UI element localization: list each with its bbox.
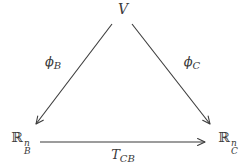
diagram-arrows [0, 0, 247, 168]
node-rn-b-scripts: nB [24, 139, 31, 155]
node-rn-c-scripts: nC [231, 139, 238, 155]
commutative-diagram: V ℝnB ℝnC ϕB ϕC TCB [0, 0, 247, 168]
edge-label-t-cb-subscript: CB [120, 153, 135, 164]
arrow-v-to-rc [132, 24, 210, 124]
node-v: V [118, 2, 128, 16]
arrow-v-to-rb [36, 24, 112, 124]
node-v-label: V [118, 1, 128, 17]
edge-label-phi-b-base: ϕ [45, 54, 54, 69]
edge-label-t-cb: TCB [111, 148, 135, 164]
edge-label-phi-c: ϕC [184, 55, 201, 71]
edge-label-phi-c-base: ϕ [184, 54, 193, 69]
edge-label-phi-b: ϕB [45, 55, 61, 71]
node-rn-b: ℝnB [11, 130, 30, 155]
node-rn-c-base: ℝ [218, 129, 230, 145]
node-rn-b-subscript: B [24, 147, 31, 155]
node-rn-b-base: ℝ [11, 129, 23, 145]
node-rn-c-subscript: C [231, 147, 238, 155]
node-rn-c: ℝnC [218, 130, 238, 155]
edge-label-t-cb-base: T [111, 147, 120, 162]
edge-label-phi-c-subscript: C [193, 60, 201, 71]
edge-label-phi-b-subscript: B [54, 60, 61, 71]
